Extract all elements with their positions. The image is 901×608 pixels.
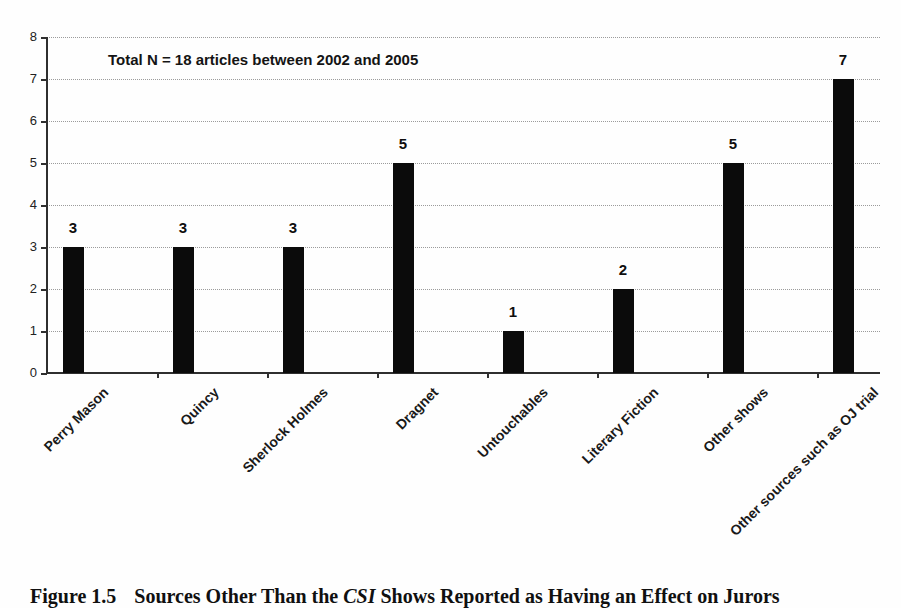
x-axis-category-label: Perry Mason (41, 384, 112, 455)
x-axis-category-label: Other shows (700, 384, 771, 455)
bar-value-label: 5 (383, 135, 423, 153)
y-axis-tick-label: 7 (10, 70, 37, 88)
bar-value-label: 7 (823, 51, 863, 69)
gridline (47, 205, 880, 206)
bar (723, 163, 744, 373)
x-axis-category-label: Literary Fiction (578, 384, 661, 467)
plot-area: 0123456783Perry Mason3Quincy3Sherlock Ho… (0, 0, 901, 580)
y-axis-tick-label: 6 (10, 112, 37, 130)
bar (833, 79, 854, 373)
bar-value-label: 1 (493, 303, 533, 321)
caption-italic-csi: CSI (343, 585, 375, 607)
bar-value-label: 3 (53, 219, 93, 237)
bar-value-label: 5 (713, 135, 753, 153)
x-axis (46, 372, 880, 374)
caption-text-before: Sources Other Than the (134, 585, 343, 607)
bar (173, 247, 194, 373)
bar-chart: 0123456783Perry Mason3Quincy3Sherlock Ho… (0, 0, 901, 580)
x-axis-tick (707, 373, 709, 378)
bar (393, 163, 414, 373)
gridline (47, 79, 880, 80)
x-axis-tick (817, 373, 819, 378)
bar (63, 247, 84, 373)
y-axis-tick-label: 2 (10, 280, 37, 298)
figure-caption: Figure 1.5Sources Other Than the CSI Sho… (30, 585, 780, 608)
y-axis-tick-label: 8 (10, 28, 37, 46)
bar-value-label: 3 (163, 219, 203, 237)
y-axis-tick-label: 1 (10, 322, 37, 340)
x-axis-tick (597, 373, 599, 378)
x-axis-category-label: Sherlock Holmes (240, 384, 332, 476)
figure-caption-number: Figure 1.5 (30, 585, 116, 607)
gridline (47, 37, 880, 38)
bar (503, 331, 524, 373)
x-axis-category-label: Dragnet (393, 384, 442, 433)
x-axis-category-label: Untouchables (475, 384, 552, 461)
bar-value-label: 2 (603, 261, 643, 279)
y-axis-tick-label: 3 (10, 238, 37, 256)
y-axis (46, 37, 48, 373)
x-axis-tick (377, 373, 379, 378)
chart-annotation: Total N = 18 articles between 2002 and 2… (108, 51, 418, 68)
x-axis-category-label: Quincy (176, 384, 221, 429)
x-axis-tick (157, 373, 159, 378)
y-axis-tick-label: 5 (10, 154, 37, 172)
bar (283, 247, 304, 373)
y-axis-tick-label: 4 (10, 196, 37, 214)
gridline (47, 121, 880, 122)
x-axis-tick (487, 373, 489, 378)
bar (613, 289, 634, 373)
figure-caption-text: Sources Other Than the CSI Shows Reporte… (134, 585, 779, 607)
y-axis-tick-label: 0 (10, 364, 37, 382)
gridline (47, 163, 880, 164)
x-axis-tick (267, 373, 269, 378)
caption-text-after: Shows Reported as Having an Effect on Ju… (375, 585, 779, 607)
bar-value-label: 3 (273, 219, 313, 237)
